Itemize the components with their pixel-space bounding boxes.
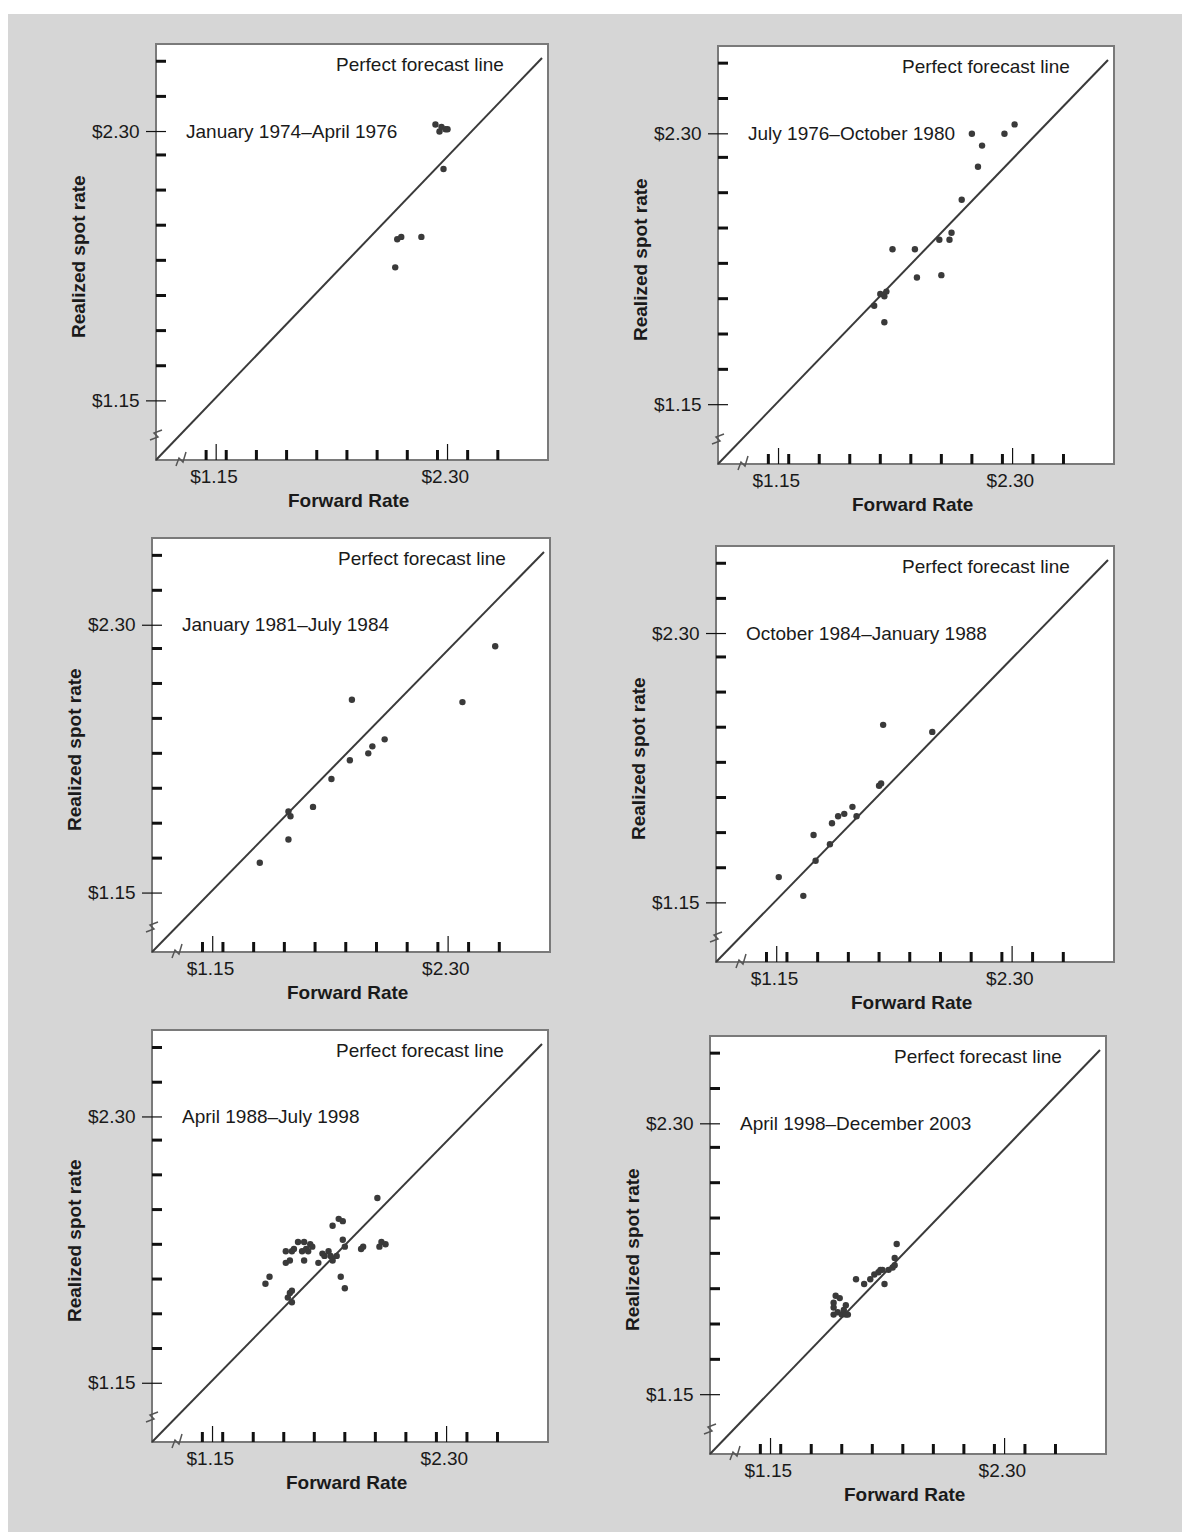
perfect-forecast-line-label: Perfect forecast line (338, 548, 506, 570)
data-point (340, 1236, 346, 1242)
period-title: April 1988–July 1998 (182, 1106, 359, 1128)
data-point (392, 264, 398, 270)
scatter-plot-4 (638, 530, 1190, 1030)
data-point (853, 813, 859, 819)
data-point (315, 1260, 321, 1266)
scatter-panel-5: Perfect forecast lineApril 1988–July 199… (72, 1018, 652, 1518)
data-point (289, 1287, 295, 1293)
x-axis-label: Forward Rate (852, 494, 973, 516)
scatter-plot-5 (72, 1018, 652, 1518)
data-point (800, 893, 806, 899)
data-point (374, 1195, 380, 1201)
y-axis-label: Realized spot rate (628, 677, 650, 840)
data-point (883, 288, 889, 294)
data-point (889, 246, 895, 252)
data-point (310, 804, 316, 810)
data-point (948, 230, 954, 236)
period-title: July 1976–October 1980 (748, 123, 955, 145)
y-axis-label: Realized spot rate (64, 1159, 86, 1322)
data-point (1001, 131, 1007, 137)
scatter-plot-2 (638, 30, 1190, 530)
data-point (881, 319, 887, 325)
x-tick-label-high: $2.30 (979, 1460, 1027, 1482)
scatter-plot-3 (72, 524, 652, 1024)
period-title: April 1998–December 2003 (740, 1113, 971, 1135)
period-title: October 1984–January 1988 (746, 623, 987, 645)
x-axis-label: Forward Rate (851, 992, 972, 1014)
data-point (333, 1253, 339, 1259)
data-point (812, 858, 818, 864)
data-point (360, 1243, 366, 1249)
x-tick-label-high: $2.30 (422, 466, 470, 488)
y-tick-label-low: $1.15 (92, 390, 140, 412)
data-point (295, 1239, 301, 1245)
data-point (342, 1243, 348, 1249)
data-point (969, 131, 975, 137)
data-point (340, 1218, 346, 1224)
x-axis-label: Forward Rate (288, 490, 409, 512)
data-point (871, 303, 877, 309)
x-tick-label-low: $1.15 (187, 1448, 235, 1470)
data-point (891, 1255, 897, 1261)
y-axis-label: Realized spot rate (68, 175, 90, 338)
data-point (891, 1262, 897, 1268)
data-point (912, 246, 918, 252)
data-point (291, 1246, 297, 1252)
data-point (914, 274, 920, 280)
y-tick-label-high: $2.30 (88, 1106, 136, 1128)
x-tick-label-high: $2.30 (422, 958, 470, 980)
x-tick-label-low: $1.15 (187, 958, 235, 980)
x-tick-label-high: $2.30 (987, 470, 1035, 492)
data-point (257, 860, 263, 866)
data-point (299, 1248, 305, 1254)
data-point (444, 126, 450, 132)
y-tick-label-high: $2.30 (88, 614, 136, 636)
data-point (837, 1295, 843, 1301)
period-title: January 1974–April 1976 (186, 121, 397, 143)
scatter-panel-1: Perfect forecast lineJanuary 1974–April … (72, 30, 652, 530)
scatter-plot-1 (72, 30, 652, 530)
data-point (979, 142, 985, 148)
data-point (349, 697, 355, 703)
data-point (827, 841, 833, 847)
data-point (342, 1285, 348, 1291)
data-point (879, 1267, 885, 1273)
data-point (440, 166, 446, 172)
data-point (266, 1274, 272, 1280)
data-point (861, 1281, 867, 1287)
y-tick-label-low: $1.15 (88, 1372, 136, 1394)
perfect-forecast-line-label: Perfect forecast line (902, 556, 1070, 578)
data-point (894, 1241, 900, 1247)
y-axis-label: Realized spot rate (64, 668, 86, 831)
data-point (843, 1302, 849, 1308)
x-tick-label-high: $2.30 (986, 968, 1034, 990)
y-axis-label: Realized spot rate (622, 1168, 644, 1331)
perfect-forecast-line-label: Perfect forecast line (902, 56, 1070, 78)
data-point (830, 1300, 836, 1306)
y-axis-label: Realized spot rate (630, 178, 652, 341)
data-point (328, 776, 334, 782)
y-tick-label-low: $1.15 (654, 394, 702, 416)
data-point (285, 836, 291, 842)
x-tick-label-high: $2.30 (421, 1448, 469, 1470)
data-point (287, 813, 293, 819)
data-point (301, 1239, 307, 1245)
data-point (946, 237, 952, 243)
data-point (329, 1223, 335, 1229)
x-tick-label-low: $1.15 (753, 470, 801, 492)
y-tick-label-high: $2.30 (646, 1113, 694, 1135)
data-point (1011, 121, 1017, 127)
data-point (459, 699, 465, 705)
data-point (959, 197, 965, 203)
data-point (849, 804, 855, 810)
x-tick-label-low: $1.15 (190, 466, 238, 488)
x-tick-label-low: $1.15 (745, 1460, 793, 1482)
data-point (381, 736, 387, 742)
data-point (398, 234, 404, 240)
data-point (287, 1257, 293, 1263)
data-point (289, 1299, 295, 1305)
y-tick-label-low: $1.15 (646, 1384, 694, 1406)
perfect-forecast-line-label: Perfect forecast line (894, 1046, 1062, 1068)
data-point (810, 832, 816, 838)
data-point (841, 811, 847, 817)
